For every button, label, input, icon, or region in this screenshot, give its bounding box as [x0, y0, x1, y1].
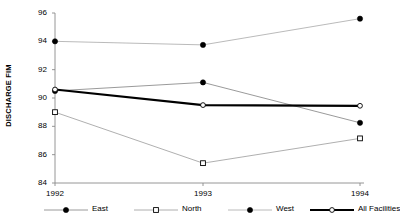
chart-legend: EastNorthWestAll Facilities — [0, 198, 388, 218]
data-point — [357, 120, 362, 125]
axis-lines — [55, 13, 364, 183]
legend-marker-icon — [310, 202, 354, 214]
data-point — [358, 103, 363, 108]
legend-marker-icon — [44, 202, 88, 214]
data-point — [200, 80, 205, 85]
series-east — [52, 80, 362, 126]
data-point — [53, 87, 58, 92]
legend-marker-icon — [134, 202, 178, 214]
data-point — [357, 16, 362, 21]
data-point — [53, 110, 58, 115]
legend-label: All Facilities — [358, 204, 400, 213]
legend-label: West — [276, 204, 294, 213]
data-point — [201, 161, 206, 166]
series-north — [53, 110, 363, 166]
legend-label: East — [92, 204, 108, 213]
series-west — [52, 16, 362, 47]
data-point — [201, 103, 206, 108]
legend-item-all-facilities[interactable]: All Facilities — [310, 200, 400, 216]
legend-label: North — [182, 204, 202, 213]
legend-item-north[interactable]: North — [134, 200, 202, 216]
legend-item-west[interactable]: West — [228, 200, 294, 216]
legend-marker-icon — [228, 202, 272, 214]
data-point — [200, 42, 205, 47]
legend-item-east[interactable]: East — [44, 200, 108, 216]
series-all-facilities — [53, 87, 363, 108]
data-point — [52, 39, 57, 44]
data-point — [358, 136, 363, 141]
